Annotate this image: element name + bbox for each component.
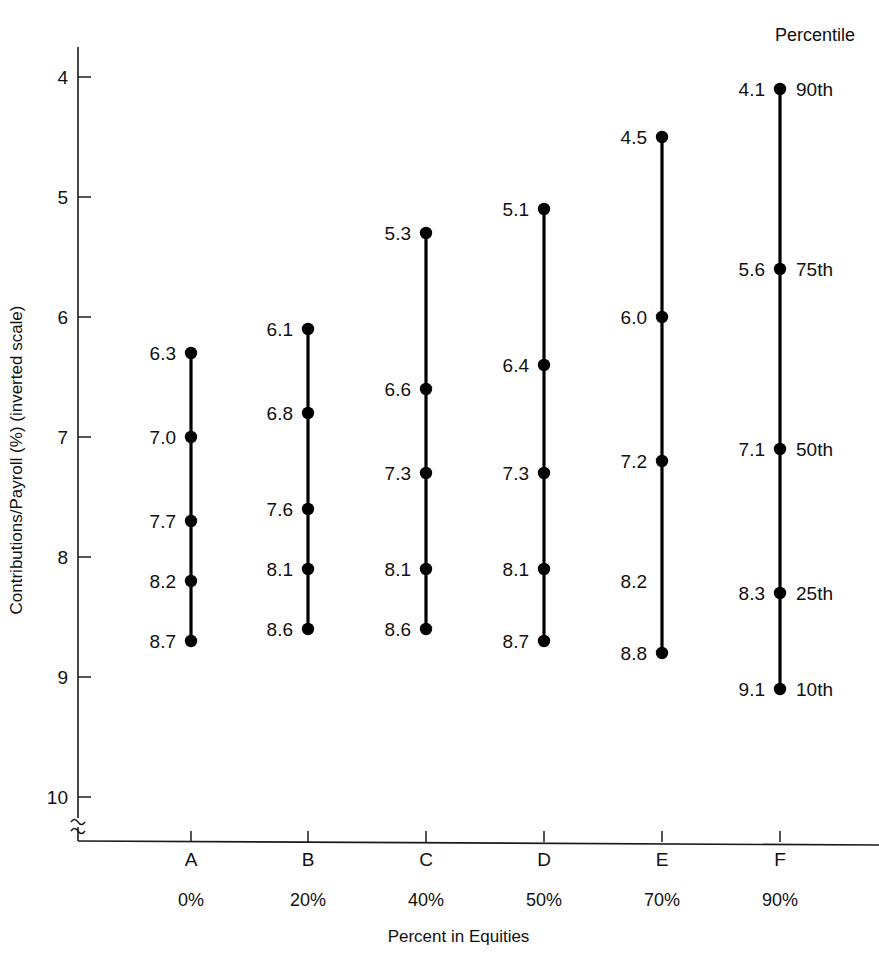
axis-break-icon [71, 820, 85, 825]
data-point-marker [420, 623, 432, 635]
data-point-value-label: 4.5 [621, 127, 647, 148]
category-equities-e: 70% [644, 890, 680, 910]
data-point-value-label: 8.6 [385, 619, 411, 640]
category-letter-b: B [302, 849, 315, 870]
x-axis [78, 827, 879, 845]
category-equities-a: 0% [178, 890, 204, 910]
category-letter-f: F [774, 849, 786, 870]
x-axis-title: Percent in Equities [388, 927, 530, 946]
data-point-value-label: 8.3 [739, 583, 765, 604]
percentile-label-90th: 90th [796, 79, 833, 100]
data-point-value-label: 8.8 [621, 643, 647, 664]
data-point-value-label: 4.1 [739, 79, 765, 100]
y-axis-tick-label: 4 [57, 67, 68, 88]
category-letter-a: A [185, 849, 198, 870]
data-point-marker [538, 359, 550, 371]
legend-layer: Percentile90th75th50th25th10th [775, 25, 855, 700]
data-point-value-label: 6.8 [267, 403, 293, 424]
data-point-value-label: 6.6 [385, 379, 411, 400]
y-axis-tick-label: 7 [57, 427, 68, 448]
y-axis-tick-label: 9 [57, 667, 68, 688]
data-point-marker [774, 263, 786, 275]
category-equities-f: 90% [762, 890, 798, 910]
data-point-value-label: 5.1 [503, 199, 529, 220]
y-axis-tick-label: 6 [57, 307, 68, 328]
data-point-marker [538, 563, 550, 575]
data-point-marker [302, 623, 314, 635]
data-point-marker [185, 515, 197, 527]
data-point-value-label: 6.0 [621, 307, 647, 328]
category-equities-c: 40% [408, 890, 444, 910]
percentile-range-chart: 45678910 6.37.07.78.28.76.16.87.68.18.65… [0, 0, 879, 954]
data-point-value-label: 8.1 [503, 559, 529, 580]
category-letter-c: C [419, 849, 433, 870]
data-point-marker [420, 563, 432, 575]
y-axis-title: Contributions/Payroll (%) (inverted scal… [7, 306, 26, 615]
data-point-value-label: 7.3 [385, 463, 411, 484]
data-point-value-label: 7.3 [503, 463, 529, 484]
data-point-marker [185, 635, 197, 647]
data-point-value-label: 8.7 [150, 631, 176, 652]
data-point-marker [420, 227, 432, 239]
data-point-marker [302, 407, 314, 419]
data-point-marker [420, 467, 432, 479]
data-series-layer [185, 83, 786, 695]
data-point-marker [538, 635, 550, 647]
y-axis-tick-label: 5 [57, 187, 68, 208]
percentile-label-10th: 10th [796, 679, 833, 700]
data-point-marker [302, 323, 314, 335]
data-point-value-label: 7.2 [621, 451, 647, 472]
y-axis-tick-label: 8 [57, 547, 68, 568]
data-point-value-label: 8.7 [503, 631, 529, 652]
data-point-marker [302, 503, 314, 515]
data-point-marker [774, 683, 786, 695]
data-point-marker [185, 347, 197, 359]
data-point-marker [185, 431, 197, 443]
data-point-marker [774, 443, 786, 455]
data-point-marker [656, 131, 668, 143]
data-point-marker [656, 311, 668, 323]
data-point-value-label: 5.6 [739, 259, 765, 280]
data-point-marker [538, 203, 550, 215]
y-axis: 45678910 [47, 47, 91, 834]
data-point-marker [185, 575, 197, 587]
data-point-value-label: 6.1 [267, 319, 293, 340]
y-axis-tick-label: 10 [47, 787, 68, 808]
data-point-marker [656, 455, 668, 467]
category-letter-e: E [656, 849, 669, 870]
legend-title: Percentile [775, 25, 855, 45]
data-point-value-label: 8.2 [150, 571, 176, 592]
data-point-value-label: 8.1 [267, 559, 293, 580]
data-point-marker [538, 467, 550, 479]
percentile-label-50th: 50th [796, 439, 833, 460]
data-point-value-label: 6.3 [150, 343, 176, 364]
category-letter-d: D [537, 849, 551, 870]
data-point-marker [656, 647, 668, 659]
data-point-marker [774, 587, 786, 599]
data-point-marker [774, 83, 786, 95]
category-equities-d: 50% [526, 890, 562, 910]
data-point-value-label: 7.0 [150, 427, 176, 448]
data-point-value-label: 7.7 [150, 511, 176, 532]
data-point-value-label: 7.1 [739, 439, 765, 460]
x-axis-line [78, 841, 879, 845]
category-labels-layer: A0%B20%C40%D50%E70%F90% [178, 849, 798, 910]
data-point-value-label: 5.3 [385, 223, 411, 244]
chart-figure: 45678910 6.37.07.78.28.76.16.87.68.18.65… [0, 0, 879, 954]
data-point-value-label: 9.1 [739, 679, 765, 700]
data-point-value-label: 7.6 [267, 499, 293, 520]
data-point-value-label: 8.6 [267, 619, 293, 640]
data-point-marker [420, 383, 432, 395]
data-point-value-label: 8.1 [385, 559, 411, 580]
percentile-label-25th: 25th [796, 583, 833, 604]
data-labels-layer: 6.37.07.78.28.76.16.87.68.18.65.36.67.38… [150, 79, 765, 700]
data-point-value-label: 8.2 [621, 571, 647, 592]
category-equities-b: 20% [290, 890, 326, 910]
percentile-label-75th: 75th [796, 259, 833, 280]
data-point-value-label: 6.4 [503, 355, 530, 376]
data-point-marker [302, 563, 314, 575]
